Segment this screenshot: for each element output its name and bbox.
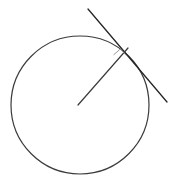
figure-background [0, 0, 179, 188]
geometry-figure [0, 0, 179, 188]
geometry-canvas [0, 0, 179, 188]
